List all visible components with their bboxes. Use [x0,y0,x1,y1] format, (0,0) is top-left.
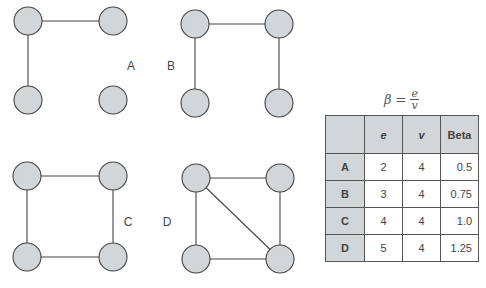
cell-v: 4 [403,181,441,208]
graph-node [13,243,41,271]
formula-numerator: e [410,88,419,100]
header-v: v [403,116,441,154]
cell-v: 4 [403,208,441,235]
cell-e: 3 [365,181,403,208]
graph-node [14,7,42,35]
graph-label-b: B [167,59,175,73]
row-label: C [326,208,365,235]
beta-table: e v Beta A 2 4 0.5 B 3 4 0.75 C 4 4 1.0 … [325,115,479,262]
formula-lhs: β [384,92,392,107]
cell-beta: 0.75 [441,181,479,208]
graph-node [181,10,209,38]
formula-equals: = [396,92,407,107]
row-label: D [326,235,365,262]
graph-label-d: D [163,215,172,229]
cell-v: 4 [403,154,441,181]
graph-a [14,7,127,114]
graph-node [265,10,293,38]
graph-node [13,162,41,190]
header-beta: Beta [441,116,479,154]
row-label: B [326,181,365,208]
graph-node [182,245,210,273]
header-e: e [365,116,403,154]
header-corner [326,116,365,154]
formula-fraction: e v [410,88,419,111]
table-row: A 2 4 0.5 [326,154,479,181]
graph-node [99,162,127,190]
table-row: B 3 4 0.75 [326,181,479,208]
row-label: A [326,154,365,181]
graph-c [13,162,127,271]
graph-label-a: A [127,59,135,73]
table-row: D 5 4 1.25 [326,235,479,262]
cell-e: 2 [365,154,403,181]
cell-beta: 1.25 [441,235,479,262]
graph-node [99,86,127,114]
graph-label-c: C [124,215,133,229]
graph-node [265,89,293,117]
cell-e: 4 [365,208,403,235]
graph-node [266,245,294,273]
graph-node [182,164,210,192]
graph-d [182,164,294,273]
cell-beta: 0.5 [441,154,479,181]
cell-beta: 1.0 [441,208,479,235]
graph-node [99,243,127,271]
graph-node [266,164,294,192]
table-row: C 4 4 1.0 [326,208,479,235]
formula-denominator: v [412,100,418,111]
graph-node [99,7,127,35]
cell-v: 4 [403,235,441,262]
graph-node [14,86,42,114]
beta-formula: β = e v [384,84,419,114]
table-header-row: e v Beta [326,116,479,154]
graph-b [181,10,293,117]
graph-edge [196,178,280,259]
graph-node [181,89,209,117]
cell-e: 5 [365,235,403,262]
